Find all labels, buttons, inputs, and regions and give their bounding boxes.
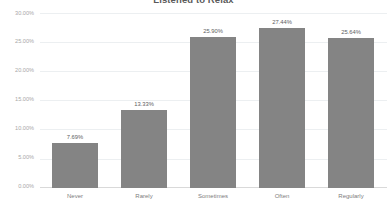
bar-group-never[interactable]: 7.69% Never [52,13,98,188]
bar-never[interactable] [52,143,98,188]
y-tick-label-15: 15.00% [0,96,34,103]
bar-value-regularly: 25.64% [341,29,361,36]
category-label-regularly: Regularly [338,192,363,200]
category-label-often: Often [275,192,290,200]
bar-regularly[interactable] [328,38,374,188]
bar-rarely[interactable] [121,110,167,188]
category-label-rarely: Rarely [135,192,152,200]
category-label-never: Never [67,192,83,200]
y-tick-label-30: 30.00% [0,10,34,17]
y-tick-label-10: 10.00% [0,125,34,132]
chart-title: Listened to Relax [0,0,387,5]
bar-group-sometimes[interactable]: 25.90% Sometimes [190,13,236,188]
y-tick-label-0: 0.00% [0,183,34,190]
y-tick-label-20: 20.00% [0,67,34,74]
bar-group-regularly[interactable]: 25.64% Regularly [328,13,374,188]
bar-value-rarely: 13.33% [134,101,154,108]
bar-group-rarely[interactable]: 13.33% Rarely [121,13,167,188]
plot-area: 7.69% Never 13.33% Rarely 25.90% Sometim… [40,13,387,188]
y-axis: 30.00% 25.00% 20.00% 15.00% 10.00% 5.00%… [0,0,36,205]
bar-often[interactable] [259,28,305,188]
bar-group-often[interactable]: 27.44% Often [259,13,305,188]
category-label-sometimes: Sometimes [198,192,228,200]
y-tick-label-25: 25.00% [0,38,34,45]
bar-value-often: 27.44% [272,19,292,26]
bar-sometimes[interactable] [190,37,236,188]
bar-value-sometimes: 25.90% [203,28,223,35]
y-tick-label-5: 5.00% [0,154,34,161]
bar-chart: Listened to Relax 30.00% 25.00% 20.00% 1… [0,0,387,205]
bar-value-never: 7.69% [67,134,83,141]
